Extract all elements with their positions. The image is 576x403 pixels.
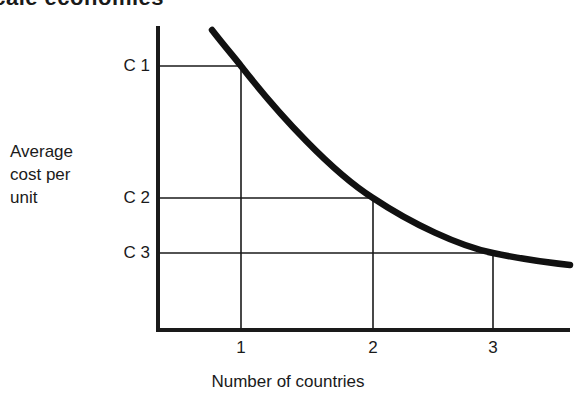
cost-curve (212, 30, 570, 265)
x-axis-label: Number of countries (0, 372, 576, 392)
plot-area (0, 0, 576, 403)
chart-figure: Scale economies Average cost per unit C … (0, 0, 576, 403)
